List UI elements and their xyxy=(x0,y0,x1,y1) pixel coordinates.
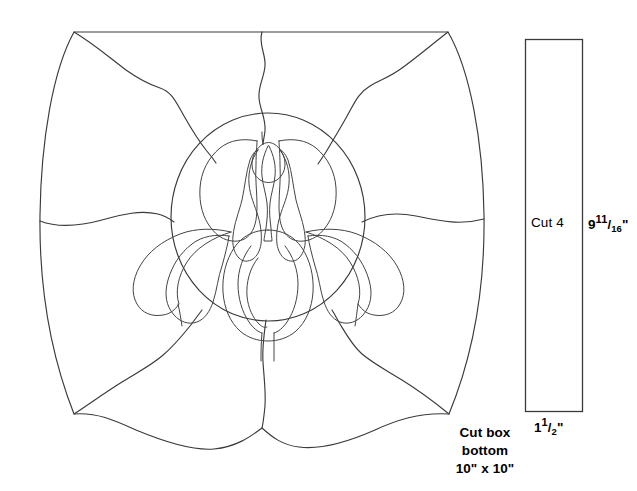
cut-box-line-3: 10" x 10" xyxy=(430,460,540,478)
cut-4-label: Cut 4 xyxy=(531,215,564,230)
strip-height-dimension: 911/16" xyxy=(588,213,628,234)
radial-line-left xyxy=(40,212,174,225)
height-whole-number: 9 xyxy=(588,217,596,232)
medallion-circle xyxy=(171,113,365,321)
cut-box-line-2: bottom xyxy=(430,442,540,460)
iris-petal-upper-left xyxy=(200,140,257,242)
height-denominator: 16 xyxy=(611,223,622,234)
cut-box-bottom-annotation: Cut box bottom 10" x 10" xyxy=(430,424,540,478)
strip-width-dimension: 11/2" xyxy=(534,416,563,437)
outer-contour xyxy=(40,32,484,449)
radial-line-bottom xyxy=(262,320,266,428)
height-unit: " xyxy=(622,217,629,232)
iris-style-right xyxy=(277,150,306,261)
radial-line-lower-left xyxy=(74,310,202,414)
medallion-joint-right xyxy=(355,304,358,326)
iris-center-column xyxy=(262,146,276,241)
width-unit: " xyxy=(557,420,564,435)
pattern-sheet: Cut box bottom 10" x 10" Cut 4 911/16" 1… xyxy=(0,0,637,491)
cut-box-line-1: Cut box xyxy=(430,424,540,442)
width-denominator: 2 xyxy=(552,426,557,437)
iris-stem-left xyxy=(261,333,262,361)
iris-sepal-left xyxy=(133,229,231,315)
iris-sepal-right xyxy=(306,229,404,315)
medallion-joint-top xyxy=(262,132,263,144)
box-bottom-pattern xyxy=(40,32,484,449)
width-whole-number: 1 xyxy=(534,420,542,435)
radial-line-top xyxy=(259,32,265,144)
medallion-joint-left xyxy=(178,304,182,326)
iris-bloom-leaf-left xyxy=(247,258,267,327)
height-numerator: 11 xyxy=(596,213,608,225)
radial-line-upper-left xyxy=(74,32,216,163)
radial-line-right xyxy=(362,214,484,222)
iris-falls-right xyxy=(308,235,371,323)
height-fraction: 11/16 xyxy=(596,213,622,234)
iris-lower-bloom xyxy=(223,230,313,341)
width-fraction: 1/2 xyxy=(542,416,557,437)
iris-flower-medallion xyxy=(133,113,404,361)
radial-line-lower-right xyxy=(332,310,449,414)
